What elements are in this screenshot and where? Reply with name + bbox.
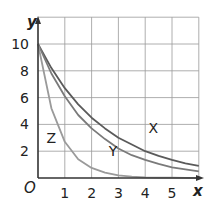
x-axis-label: x bbox=[192, 182, 204, 200]
x-tick-label: 4 bbox=[141, 185, 150, 201]
x-axis-arrow-icon bbox=[196, 175, 204, 181]
origin-label: O bbox=[24, 179, 36, 197]
curve-label-z: Z bbox=[47, 130, 57, 146]
chart-canvas: 12345246810 y x O XYZ bbox=[0, 0, 212, 218]
y-tick-label: 10 bbox=[11, 36, 29, 52]
grid-lines bbox=[38, 17, 199, 178]
y-tick-label: 6 bbox=[20, 90, 29, 106]
y-tick-label: 2 bbox=[20, 143, 29, 159]
x-tick-label: 3 bbox=[114, 185, 123, 201]
y-tick-label: 8 bbox=[20, 63, 29, 79]
y-axis-label: y bbox=[27, 13, 38, 31]
x-tick-label: 2 bbox=[87, 185, 96, 201]
axes bbox=[35, 16, 204, 181]
y-tick-label: 4 bbox=[20, 116, 29, 132]
curve-label-x: X bbox=[148, 120, 158, 136]
decay-curves-chart: 12345246810 y x O XYZ bbox=[0, 0, 212, 218]
x-tick-label: 5 bbox=[168, 185, 177, 201]
x-tick-label: 1 bbox=[60, 185, 69, 201]
curve-label-y: Y bbox=[108, 143, 118, 159]
